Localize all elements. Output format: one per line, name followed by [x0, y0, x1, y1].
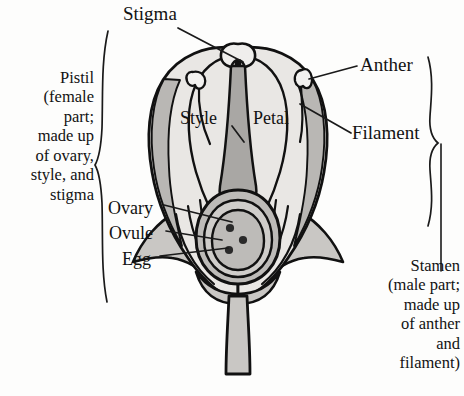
ovule-label: Ovule [109, 224, 153, 243]
leader-anther [309, 66, 357, 79]
flower-anatomy-diagram: Pistil (female part; made up of ovary, s… [0, 0, 464, 396]
anther-label: Anther [360, 55, 413, 75]
style-label: Style [180, 109, 217, 128]
pistil-brace [95, 31, 108, 302]
filament-label: Filament [352, 123, 420, 143]
pistil-group-label: Pistil (female part; made up of ovary, s… [2, 68, 94, 204]
petal-label: Petal [253, 109, 289, 128]
stamen-parts-brace [428, 57, 438, 226]
stem [226, 296, 250, 374]
ovary-label: Ovary [108, 199, 153, 218]
stigma-label: Stigma [123, 4, 177, 24]
egg-label: Egg [122, 250, 151, 269]
stamen-group-label: Stamen (male part; made up of anther and… [332, 256, 460, 373]
